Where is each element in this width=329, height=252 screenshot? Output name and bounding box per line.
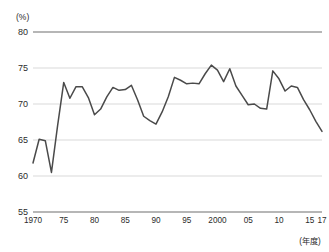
x-axis-tick-label: 15 — [305, 216, 314, 225]
y-axis-tick-label: 80 — [8, 27, 28, 37]
x-axis-caption: (年度) — [299, 234, 320, 246]
x-axis-tick-label: 10 — [274, 216, 283, 225]
data-line — [33, 65, 322, 172]
x-axis-tick-label: 95 — [182, 216, 191, 225]
x-axis-tick-label: 90 — [151, 216, 160, 225]
y-axis-tick-label: 75 — [8, 63, 28, 73]
gridlines — [33, 32, 322, 212]
x-axis-tick-label: 17 — [317, 216, 326, 225]
y-axis-tick-label: 70 — [8, 99, 28, 109]
y-axis-tick-label: 65 — [8, 135, 28, 145]
x-axis-tick-label: 1970 — [24, 216, 42, 225]
x-axis-tick-label: 2000 — [208, 216, 226, 225]
data-series-group — [33, 65, 322, 172]
x-axis-tick-label: 85 — [121, 216, 130, 225]
x-axis-tick-label: 75 — [59, 216, 68, 225]
y-axis-tick-label: 60 — [8, 171, 28, 181]
plot-area — [0, 0, 329, 252]
line-chart: (%) 807570656055 19707580859095200005101… — [0, 0, 329, 252]
x-axis-tick-label: 80 — [90, 216, 99, 225]
x-axis-tick-label: 05 — [244, 216, 253, 225]
